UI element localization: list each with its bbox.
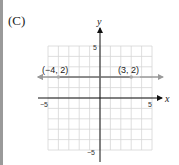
x-tick-max: 5 bbox=[148, 101, 152, 108]
y-axis-label: y bbox=[96, 16, 102, 27]
x-tick-min: −5 bbox=[40, 101, 48, 108]
point-b-label: (3, 2) bbox=[118, 65, 139, 75]
point-b bbox=[129, 75, 133, 79]
y-tick-max: 5 bbox=[93, 44, 97, 51]
point-a bbox=[57, 75, 61, 79]
y-tick-min: −5 bbox=[87, 149, 95, 156]
coordinate-plane: (−4, 2) (3, 2) x y −5 5 5 −5 bbox=[0, 0, 179, 165]
x-axis-label: x bbox=[164, 93, 170, 104]
point-a-label: (−4, 2) bbox=[42, 65, 68, 75]
